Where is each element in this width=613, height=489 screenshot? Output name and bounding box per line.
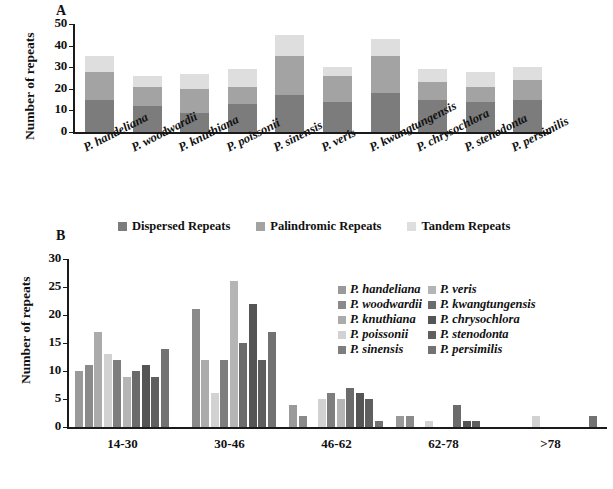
figure-root: A Number of repeats 01020304050 P. hande… xyxy=(0,0,613,489)
panel-a-bar-segment xyxy=(323,76,352,102)
panel-b-bar xyxy=(211,393,219,427)
panel-b-legend-swatch xyxy=(338,346,346,354)
panel-b-legend-label: P. sinensis xyxy=(350,342,403,357)
panel-a-bar-segment xyxy=(228,87,257,104)
panel-b-y-tick xyxy=(63,427,67,428)
panel-a-bar-segment xyxy=(418,82,447,99)
panel-b-legend-item: P. kwangtungensis xyxy=(428,297,536,312)
panel-a-y-tick xyxy=(69,110,73,111)
panel-b-bar xyxy=(318,399,326,427)
panel-a-bar-segment xyxy=(275,35,304,57)
panel-b-bar xyxy=(75,371,83,427)
panel-b-bar xyxy=(299,416,307,427)
panel-a-legend-item: Tandem Repeats xyxy=(407,219,510,234)
panel-b-bar xyxy=(365,399,373,427)
panel-b-legend-swatch xyxy=(338,316,346,324)
panel-b-legend-item: P. veris xyxy=(428,282,536,297)
panel-b-y-tick xyxy=(63,399,67,400)
panel-b-y-tick xyxy=(63,259,67,260)
panel-b-bar xyxy=(161,349,169,427)
panel-a-legend-swatch xyxy=(118,222,127,231)
panel-b-bar xyxy=(346,388,354,427)
panel-b-legend-swatch xyxy=(428,301,436,309)
panel-a-bar-segment xyxy=(513,67,542,80)
panel-b-y-tick-label: 25 xyxy=(29,278,61,294)
panel-b: B Number of repeats 051015202530 14-3030… xyxy=(0,236,613,489)
panel-b-legend-label: P. veris xyxy=(440,282,477,297)
panel-a-bar-segment xyxy=(371,39,400,56)
panel-b-bar xyxy=(463,421,471,427)
panel-b-legend: P. handelianaP. verisP. woodwardiiP. kwa… xyxy=(338,282,536,357)
panel-b-bar xyxy=(239,343,247,427)
panel-b-legend-label: P. stenodonta xyxy=(440,327,509,342)
panel-b-bar xyxy=(132,371,140,427)
panel-a-bar-segment xyxy=(85,72,114,100)
panel-b-legend-label: P. handeliana xyxy=(350,282,421,297)
panel-a-y-tick-label: 0 xyxy=(33,123,67,139)
panel-b-bar xyxy=(220,360,228,427)
panel-a-y-tick-label: 20 xyxy=(33,80,67,96)
panel-b-bar xyxy=(406,416,414,427)
panel-a-y-tick xyxy=(69,132,73,133)
panel-b-legend-item: P. woodwardii xyxy=(338,297,422,312)
panel-b-bar xyxy=(104,354,112,427)
panel-b-legend-swatch xyxy=(428,316,436,324)
panel-a-bar xyxy=(323,67,352,132)
panel-a-legend-item: Dispersed Repeats xyxy=(118,219,230,234)
panel-b-x-label: >78 xyxy=(485,436,613,452)
panel-b-legend-item: P. sinensis xyxy=(338,342,422,357)
panel-a-legend: Dispersed RepeatsPalindromic RepeatsTand… xyxy=(118,218,548,234)
panel-a-bar-segment xyxy=(466,87,495,102)
panel-b-bar xyxy=(289,405,297,427)
panel-b-x-axis xyxy=(67,427,607,429)
panel-a-y-tick xyxy=(69,67,73,68)
panel-b-bar xyxy=(151,377,159,427)
panel-b-bar xyxy=(192,309,200,427)
panel-b-bar xyxy=(327,393,335,427)
panel-a-legend-swatch xyxy=(256,222,265,231)
panel-b-bar xyxy=(123,377,131,427)
panel-b-legend-swatch xyxy=(428,331,436,339)
panel-a-bar-segment xyxy=(180,74,209,89)
panel-b-bar xyxy=(230,281,238,427)
panel-b-y-tick xyxy=(63,343,67,344)
panel-b-legend-item: P. handeliana xyxy=(338,282,422,297)
panel-a-bar-segment xyxy=(466,72,495,87)
panel-a-bar-segment xyxy=(371,56,400,93)
panel-a-bar xyxy=(275,35,304,132)
panel-b-legend-label: P. kwangtungensis xyxy=(440,297,536,312)
panel-a-y-tick-label: 10 xyxy=(33,101,67,117)
panel-b-bar xyxy=(425,421,433,427)
panel-b-bar xyxy=(532,416,540,427)
panel-b-bar xyxy=(268,332,276,427)
panel-b-y-tick-label: 10 xyxy=(29,362,61,378)
panel-b-bar xyxy=(142,365,150,427)
panel-a-y-tick xyxy=(69,24,73,25)
panel-b-bar xyxy=(113,360,121,427)
panel-b-legend-item: P. stenodonta xyxy=(428,327,536,342)
panel-b-y-tick xyxy=(63,287,67,288)
panel-b-bar xyxy=(589,416,597,427)
panel-a-bar-segment xyxy=(228,69,257,86)
panel-b-legend-label: P. woodwardii xyxy=(350,297,422,312)
panel-b-legend-swatch xyxy=(428,286,436,294)
panel-b-legend-swatch xyxy=(338,286,346,294)
panel-a-y-tick xyxy=(69,46,73,47)
panel-b-bar xyxy=(375,421,383,427)
panel-a-y-tick-label: 40 xyxy=(33,37,67,53)
panel-b-y-tick-label: 20 xyxy=(29,306,61,322)
panel-b-y-tick-label: 5 xyxy=(29,390,61,406)
panel-a-y-tick-label: 30 xyxy=(33,58,67,74)
panel-b-bar xyxy=(94,332,102,427)
panel-a-y-tick-label: 50 xyxy=(33,15,67,31)
panel-b-y-tick xyxy=(63,315,67,316)
panel-b-bar xyxy=(472,421,480,427)
panel-a-bar-segment xyxy=(133,76,162,87)
panel-a-bar-segment xyxy=(180,89,209,113)
panel-a-bar-segment xyxy=(85,56,114,71)
panel-b-legend-label: P. chrysochlora xyxy=(440,312,520,327)
panel-a-bar-segment xyxy=(418,69,447,82)
panel-a-y-tick xyxy=(69,89,73,90)
panel-a-bar-segment xyxy=(133,87,162,106)
panel-b-legend-item: P. knuthiana xyxy=(338,312,422,327)
